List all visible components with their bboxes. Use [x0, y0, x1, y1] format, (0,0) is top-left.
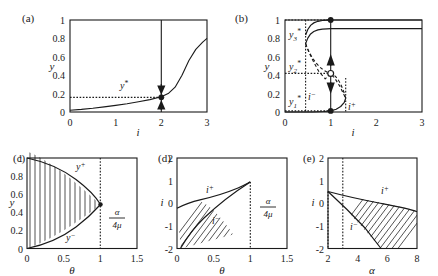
panel-b-arrow-up-head — [327, 54, 335, 66]
panel-e-ylabel: i — [311, 196, 314, 208]
panel-d-xtick-05: 0.5 — [207, 253, 220, 264]
panel-a-ytick-0: 0 — [60, 107, 65, 118]
panel-c-xtick-05: 0.5 — [57, 253, 70, 264]
panel-e-i-plus-label: i+ — [381, 184, 389, 197]
panel-d-hatching — [160, 178, 280, 258]
panel-c-y-minus-curve — [27, 205, 101, 249]
panel-e-xtick-2: 2 — [326, 253, 331, 264]
panel-c-alpha-fraction: α 4μ — [109, 207, 125, 230]
panel-d-xtick-1: 1 — [248, 253, 253, 264]
panel-e-ytick-m2: -2 — [316, 244, 324, 255]
panel-a-ytick-02: 0.2 — [53, 89, 66, 100]
panel-c: (c) 1 0.8 0.6 0.4 0.2 0 0 0.5 1 1.5 y θ — [0, 138, 150, 276]
panel-b-unstable-point — [328, 71, 334, 77]
panel-d-xtick-0: 0 — [175, 253, 180, 264]
panel-d-xtick-15: 1.5 — [281, 253, 294, 264]
panel-d-ylabel: i — [160, 196, 163, 208]
panel-a-xtick-1: 1 — [113, 117, 118, 128]
panel-c-fold-point — [98, 202, 102, 206]
panel-b: (b) 1 0.8 0.6 0.4 0.2 0 0 1 2 3 y i — [219, 0, 438, 138]
panel-d: (d) 2 1 0 -1 -2 0 0.5 1 1.5 i θ — [150, 138, 295, 276]
panel-a-ytick-08: 0.8 — [53, 33, 66, 44]
panel-e-ytick-1: 1 — [319, 176, 324, 187]
panel-b-ytick-0: 0 — [275, 107, 280, 118]
panel-c-xtick-15: 1.5 — [131, 253, 144, 264]
panel-e-svg: (e) 2 1 0 -1 -2 2 4 6 8 i α — [295, 138, 438, 276]
panel-d-ytick-m1: -1 — [165, 221, 173, 232]
panel-b-arrow-down-head — [327, 83, 335, 95]
panel-d-ytick-2: 2 — [168, 153, 173, 164]
panel-b-svg: (b) 1 0.8 0.6 0.4 0.2 0 0 1 2 3 y i — [219, 0, 438, 138]
panel-d-ytick-1: 1 — [168, 176, 173, 187]
panel-e-ytick-m1: -1 — [316, 221, 324, 232]
panel-a: (a) 1 0.8 0.6 0.4 0.2 0 0 1 2 3 y i y* — [0, 0, 219, 138]
panel-b-xtick-1: 1 — [328, 117, 333, 128]
panel-b-y1-label: y1* — [288, 94, 301, 110]
panel-e-hatching — [315, 190, 438, 263]
panel-e-ytick-0: 0 — [319, 198, 324, 209]
panel-e-xtick-4: 4 — [355, 253, 360, 264]
panel-b-ytick-1: 1 — [275, 15, 280, 26]
panel-b-y2-label: y2* — [288, 59, 301, 75]
panel-b-xtick-2: 2 — [374, 117, 379, 128]
panel-b-lower-stable-point — [328, 108, 334, 114]
panel-d-ytick-0: 0 — [168, 198, 173, 209]
panel-c-hatching — [30, 148, 100, 253]
panel-c-ytick-1: 1 — [18, 153, 23, 164]
panel-c-ytick-04: 0.4 — [11, 207, 24, 218]
panel-b-upper-stable-branch-top — [306, 20, 422, 35]
panel-b-ytick-08: 0.8 — [268, 33, 281, 44]
panel-a-xtick-0: 0 — [68, 117, 73, 128]
panel-c-y-plus-label: y+ — [75, 160, 86, 173]
panel-e-xtick-6: 6 — [385, 253, 390, 264]
panel-b-y3-label: y3* — [288, 27, 301, 43]
panel-b-i-minus-label: i− — [308, 90, 316, 103]
panel-c-ytick-02: 0.2 — [11, 225, 24, 236]
panel-e-xtick-8: 8 — [415, 253, 420, 264]
panel-c-xtick-0: 0 — [25, 253, 30, 264]
panel-e-ytick-2: 2 — [319, 153, 324, 164]
panel-a-label: (a) — [22, 12, 35, 25]
panel-b-upper-stable-branch — [306, 29, 422, 44]
panel-c-xtick-1: 1 — [98, 253, 103, 264]
panel-d-frac-den: 4μ — [263, 209, 273, 219]
panel-c-ytick-08: 0.8 — [11, 171, 24, 182]
panel-b-ylabel: y — [264, 60, 270, 72]
panel-c-y-plus-curve — [27, 158, 101, 205]
panel-e-xlabel: α — [369, 264, 375, 276]
panel-d-alpha-fraction: α 4μ — [260, 196, 276, 219]
panel-d-frame — [177, 158, 287, 249]
panel-c-svg: (c) 1 0.8 0.6 0.4 0.2 0 0 0.5 1 1.5 y θ — [0, 138, 150, 276]
panel-e-i-minus-label: i− — [350, 220, 358, 233]
panel-c-frame — [27, 158, 137, 249]
panel-a-svg: (a) 1 0.8 0.6 0.4 0.2 0 0 1 2 3 y i y* — [0, 0, 219, 138]
panel-a-ystar-label: y* — [119, 79, 128, 91]
panel-b-ytick-02: 0.2 — [268, 89, 281, 100]
panel-a-arrow-up-head — [157, 100, 165, 110]
panel-a-nullcline-curve — [70, 38, 207, 110]
panel-c-frac-den: 4μ — [112, 220, 122, 230]
panel-c-frac-num: α — [115, 207, 120, 217]
panel-d-frac-num: α — [266, 196, 271, 206]
panel-a-arrow-down-head — [157, 86, 165, 96]
panel-a-xtick-2: 2 — [159, 117, 164, 128]
panel-c-ylabel: y — [9, 196, 15, 208]
panel-a-xlabel: i — [136, 126, 139, 138]
panel-a-xtick-3: 3 — [205, 117, 210, 128]
panel-d-ytick-m2: -2 — [165, 244, 173, 255]
panel-c-ytick-0: 0 — [18, 244, 23, 255]
panel-c-xlabel: θ — [69, 264, 75, 276]
panel-b-label: (b) — [235, 12, 248, 25]
panel-e-label: (e) — [303, 152, 316, 165]
panel-b-xtick-3: 3 — [420, 117, 425, 128]
panel-b-xlabel: i — [351, 126, 354, 138]
figure-panel-grid: (a) 1 0.8 0.6 0.4 0.2 0 0 1 2 3 y i y* — [0, 0, 438, 276]
panel-a-stable-fixed-point — [159, 95, 164, 100]
panel-d-i-plus-label: i+ — [206, 183, 214, 196]
panel-a-ylabel: y — [49, 60, 55, 72]
panel-e: (e) 2 1 0 -1 -2 2 4 6 8 i α — [295, 138, 438, 276]
panel-a-ytick-1: 1 — [60, 15, 65, 26]
panel-d-svg: (d) 2 1 0 -1 -2 0 0.5 1 1.5 i θ — [150, 138, 295, 276]
panel-b-i-plus-label: i+ — [348, 100, 356, 113]
panel-b-upper-stable-point — [328, 17, 334, 23]
